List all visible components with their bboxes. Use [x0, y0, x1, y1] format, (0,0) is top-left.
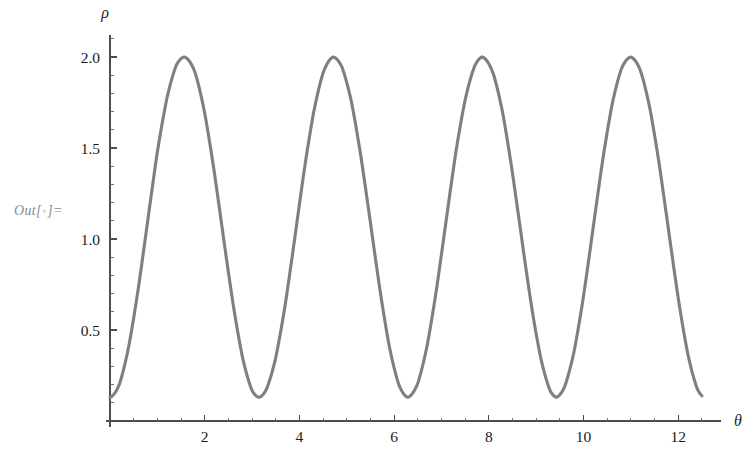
- x-tick-label: 12: [670, 428, 686, 445]
- output-cell: Out[▫]= 246810120.51.01.52.0ρθ: [0, 0, 750, 464]
- x-axis-name: θ: [734, 412, 742, 429]
- x-tick-label: 6: [390, 428, 398, 445]
- axes-group: [106, 35, 721, 427]
- axis-labels-group: 246810120.51.01.52.0ρθ: [81, 4, 742, 445]
- x-tick-label: 2: [201, 428, 209, 445]
- y-tick-label: 0.5: [81, 322, 101, 339]
- y-tick-label: 2.0: [81, 49, 101, 66]
- x-tick-label: 8: [485, 428, 493, 445]
- plot-svg: 246810120.51.01.52.0ρθ: [0, 0, 750, 464]
- x-tick-label: 10: [576, 428, 592, 445]
- y-axis-name: ρ: [100, 4, 109, 22]
- data-curve: [110, 57, 702, 397]
- x-tick-label: 4: [296, 428, 304, 445]
- curve-group: [110, 57, 702, 397]
- y-tick-label: 1.5: [81, 140, 101, 157]
- y-tick-label: 1.0: [81, 231, 101, 248]
- plot-graphics[interactable]: 246810120.51.01.52.0ρθ: [0, 0, 750, 464]
